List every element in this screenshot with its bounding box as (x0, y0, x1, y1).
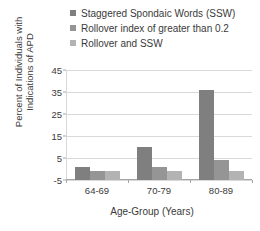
legend-item-rollover-and-ssw: Rollover and SSW (70, 36, 258, 50)
x-axis-tick-mark (128, 180, 129, 183)
legend-swatch-icon (70, 25, 76, 31)
y-axis-title-line2: Indications of APD (24, 2, 35, 142)
legend-swatch-icon (70, 40, 76, 46)
bar (229, 171, 244, 180)
legend-label: Rollover and SSW (81, 38, 163, 49)
y-axis-tick-label: 25 (51, 109, 62, 120)
chart-legend: Staggered Spondaic Words (SSW) Rollover … (70, 6, 258, 51)
bar-group: 80-89 (190, 70, 252, 180)
x-axis-tick-mark (190, 180, 191, 183)
y-axis-title-line1: Percent of Individuals with (13, 2, 24, 142)
y-axis-title: Percent of Individuals with Indications … (4, 2, 44, 142)
bar-set (190, 70, 252, 180)
legend-label: Rollover index of greater than 0.2 (81, 23, 229, 34)
bar-chart: Staggered Spondaic Words (SSW) Rollover … (0, 0, 260, 231)
gridline (66, 180, 252, 181)
legend-label: Staggered Spondaic Words (SSW) (81, 8, 235, 19)
y-axis-tick-label: 45 (51, 65, 62, 76)
x-axis-tick-label: 64-69 (66, 185, 128, 196)
y-axis-tick-label: -5 (54, 175, 62, 186)
legend-swatch-icon (70, 10, 76, 16)
x-axis-tick-mark (66, 180, 67, 183)
bar (199, 90, 214, 180)
bar-set (128, 70, 190, 180)
legend-item-ssw: Staggered Spondaic Words (SSW) (70, 6, 258, 20)
bar-groups: 64-6970-7980-89 (66, 70, 252, 180)
bar (90, 171, 105, 180)
bar (214, 160, 229, 180)
bar (152, 167, 167, 180)
plot-area: 453525155-564-6970-7980-89 (66, 70, 252, 180)
bar-group: 64-69 (66, 70, 128, 180)
bar (75, 167, 90, 180)
bar (167, 171, 182, 180)
x-axis-tick-label: 70-79 (128, 185, 190, 196)
y-axis-tick-label: 35 (51, 87, 62, 98)
bar (105, 171, 120, 180)
x-axis-tick-mark (252, 180, 253, 183)
bar-set (66, 70, 128, 180)
x-axis-tick-label: 80-89 (190, 185, 252, 196)
y-axis-tick-label: 15 (51, 131, 62, 142)
bar (137, 147, 152, 180)
bar-group: 70-79 (128, 70, 190, 180)
y-axis-tick-label: 5 (57, 153, 62, 164)
legend-item-rollover: Rollover index of greater than 0.2 (70, 21, 258, 35)
x-axis-title: Age-Group (Years) (46, 206, 258, 217)
